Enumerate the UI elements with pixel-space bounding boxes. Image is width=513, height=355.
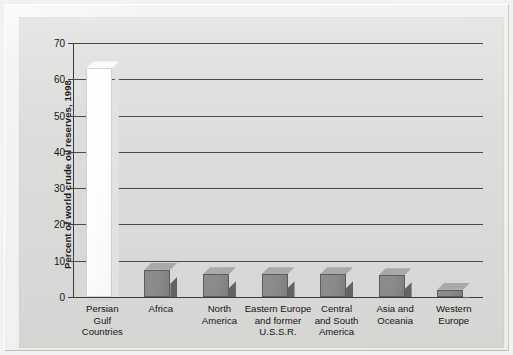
category-label-line: America [299,326,374,338]
category-label-line: Gulf [65,315,140,327]
y-tick-label: 50 [54,110,65,121]
y-tick-mark [68,188,73,189]
bar-side-face [112,75,119,297]
bar [262,274,288,297]
y-tick-mark [68,152,73,153]
bar-front-face [203,274,229,297]
y-tick-mark [68,224,73,225]
y-tick-mark [68,261,73,262]
gridline [73,43,483,44]
bar-side-face [170,277,177,297]
plot-area: 010203040506070 [73,43,483,297]
gridline [73,79,483,80]
gridline [73,224,483,225]
bar-top-face [86,61,119,68]
bar-top-face [437,283,470,290]
bar [437,290,463,297]
y-tick-mark [68,297,73,298]
category-label-line: Western [416,303,491,315]
bar-side-face [229,281,236,297]
bar-top-face [379,268,412,275]
bar-top-face [144,263,177,270]
y-tick-label: 40 [54,146,65,157]
chart-panel: Percent of world crude oil reserves, 199… [19,17,504,348]
gridline [73,188,483,189]
gridline [73,297,483,298]
bar-top-face [262,267,295,274]
bar-top-face [320,267,353,274]
figure-frame: Percent of world crude oil reserves, 199… [0,0,513,355]
bar-front-face [320,274,346,297]
category-label-line: Europe [416,315,491,327]
y-tick-label: 0 [59,292,65,303]
bar-front-face [144,270,170,297]
y-tick-mark [68,43,73,44]
bar [379,275,405,297]
bar-front-face [437,290,463,297]
y-axis-title: Percent of world crude oil reserves, 199… [62,65,73,285]
gridline [73,261,483,262]
figure-frame-bevel: Percent of world crude oil reserves, 199… [4,4,509,351]
y-tick-mark [68,79,73,80]
bar [86,68,112,297]
bar-side-face [405,282,412,297]
bar-front-face [262,274,288,297]
y-tick-label: 10 [54,255,65,266]
y-tick-mark [68,116,73,117]
y-tick-label: 30 [54,183,65,194]
bar-front-face [86,68,112,297]
gridline [73,152,483,153]
bar-front-face [379,275,405,297]
bar [320,274,346,297]
bar-side-face [346,281,353,297]
y-tick-label: 60 [54,74,65,85]
bar [203,274,229,297]
category-label-line: Countries [65,326,140,338]
y-tick-label: 70 [54,38,65,49]
y-tick-label: 20 [54,219,65,230]
gridline [73,116,483,117]
bar-top-face [203,267,236,274]
bar-side-face [288,281,295,297]
y-axis-line [73,43,74,297]
x-axis-category-label: WesternEurope [416,303,491,326]
bar [144,270,170,297]
